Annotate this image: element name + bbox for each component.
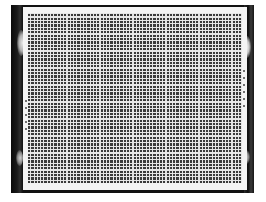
reflection-glint-bottom-left xyxy=(16,150,23,166)
sensor-grid-array xyxy=(28,13,242,183)
left-edge-pads xyxy=(25,100,28,135)
right-edge-pads xyxy=(243,70,246,112)
